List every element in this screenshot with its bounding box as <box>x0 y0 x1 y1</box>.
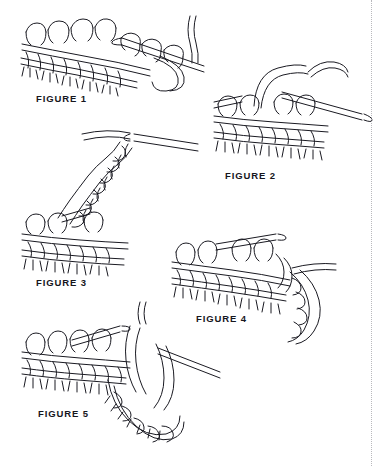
figure-2-illustration <box>212 58 372 166</box>
figure-2-label: FIGURE 2 <box>225 170 276 181</box>
figure-1-label: FIGURE 1 <box>36 93 87 104</box>
diagram-page: FIGURE 1 <box>0 0 388 466</box>
dotted-vertical-rule <box>371 0 372 466</box>
figure-5-label: FIGURE 5 <box>38 408 89 419</box>
figure-3-label: FIGURE 3 <box>36 277 87 288</box>
figure-1-illustration <box>18 14 208 96</box>
figure-5-illustration <box>22 300 222 460</box>
